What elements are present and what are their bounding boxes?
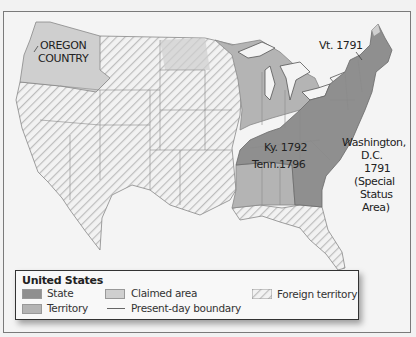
legend-label-state: State — [47, 287, 73, 299]
label-dc-4: (Special — [354, 176, 395, 188]
label-dc-6: Area) — [362, 202, 390, 214]
label-dc-3: 1791 — [364, 163, 390, 175]
label-oregon-country-2: COUNTRY — [38, 53, 88, 65]
label-dc-5: Status — [360, 189, 393, 201]
legend-swatch-territory — [22, 304, 42, 314]
legend-swatch-claimed-area — [105, 289, 125, 299]
map-legend: United States State Territory Claimed ar… — [15, 270, 359, 320]
legend-swatch-foreign-territory — [252, 289, 272, 299]
claimed-area-north — [160, 38, 210, 70]
foreign-territory-florida — [232, 205, 345, 270]
label-dc-1: Washington, — [342, 137, 406, 149]
label-dc-2: D.C. — [361, 150, 383, 162]
legend-line-present-day-boundary — [107, 308, 125, 309]
label-vermont: Vt. 1791 — [319, 40, 363, 52]
legend-label-foreign-territory: Foreign territory — [277, 288, 357, 300]
legend-label-claimed-area: Claimed area — [131, 287, 197, 299]
label-kentucky: Ky. 1792 — [264, 142, 307, 154]
legend-label-territory: Territory — [47, 302, 88, 314]
legend-swatch-state — [22, 289, 42, 299]
label-tennessee: Tenn.1796 — [252, 159, 305, 171]
legend-title: United States — [22, 274, 103, 287]
label-oregon-country-1: OREGON — [40, 40, 86, 52]
legend-label-present-day-boundary: Present-day boundary — [131, 302, 241, 314]
